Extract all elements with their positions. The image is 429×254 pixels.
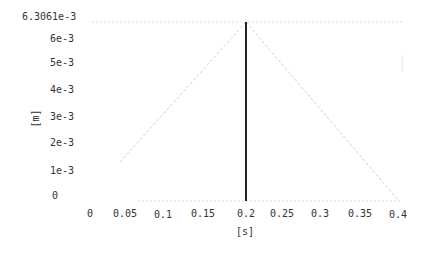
x-tick: 0.25 <box>262 209 302 219</box>
x-tick: 0.05 <box>105 209 145 219</box>
y-tick: 2e-3 <box>14 138 74 148</box>
falling-ramp-line <box>246 22 398 200</box>
x-tick: 0.15 <box>183 209 223 219</box>
x-tick: 0.1 <box>143 210 183 220</box>
rising-ramp-line <box>120 22 246 162</box>
y-tick: 4e-3 <box>14 85 74 95</box>
y-tick: 1e-3 <box>14 166 74 176</box>
y-tick: 6e-3 <box>14 34 74 44</box>
y-tick: 5e-3 <box>14 58 74 68</box>
x-tick: 0.4 <box>378 210 418 220</box>
x-tick: 0.2 <box>226 209 266 219</box>
x-tick: 0 <box>70 209 110 219</box>
x-axis-label: [s] <box>236 226 254 237</box>
y-tick-max: 6.3061e-3 <box>22 12 92 22</box>
x-tick: 0.35 <box>340 209 380 219</box>
y-axis-label: [m] <box>30 109 41 127</box>
x-tick: 0.3 <box>300 209 340 219</box>
y-tick-zero: 0 <box>52 191 58 201</box>
y-tick: 3e-3 <box>14 112 74 122</box>
